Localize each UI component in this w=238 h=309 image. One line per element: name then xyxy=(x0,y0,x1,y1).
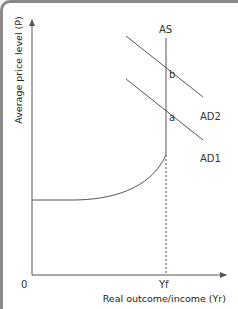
ad1-label: AD1 xyxy=(200,153,221,164)
as-label: AS xyxy=(159,24,172,35)
point-b-label: b xyxy=(169,69,175,80)
as-ad-diagram: AS AD2 AD1 b a 0 Yf Real outcome/income … xyxy=(0,0,238,309)
as-curve xyxy=(32,38,166,200)
y-axis-label: Average price level (P) xyxy=(13,16,24,123)
origin-label: 0 xyxy=(21,279,27,290)
ad2-label: AD2 xyxy=(200,111,221,122)
yf-tick-label: Yf xyxy=(158,279,169,290)
x-axis-label: Real outcome/income (Yr) xyxy=(103,293,226,304)
point-a-label: a xyxy=(169,112,175,123)
